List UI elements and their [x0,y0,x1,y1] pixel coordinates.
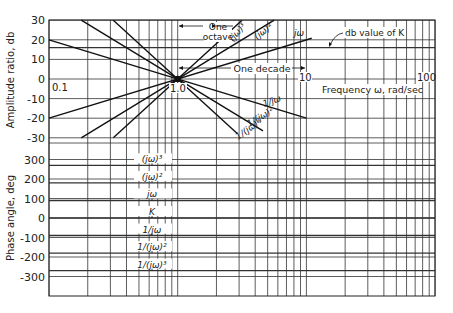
phase-label: (jω)³ [142,154,163,164]
amplitude-axis-label: Amplitude ratio, db [5,32,16,129]
line-labels: (jω)³ (jω)² jω 1/jω 1/(jω)² 1/(jω)³ [227,21,305,142]
plot-frame [49,20,435,296]
label-1-jw: 1/jω [261,93,283,109]
phase-label: 1/jω [143,225,162,235]
grid-lines [49,20,435,296]
label-jw: jω [292,28,305,38]
amplitude-tick: 30 [31,14,45,27]
db-value-of-k-label: db value of K [345,28,405,38]
amplitude-tick: 10 [31,53,45,66]
phase-label: 1/(jω)³ [137,260,167,270]
phase-tick: 200 [24,173,45,186]
phase-label: jω [145,189,158,199]
phase-tick: -300 [20,271,45,284]
phase-tick: -200 [20,251,45,264]
amplitude-tick: 20 [31,34,45,47]
phase-axis-label: Phase angle, deg [5,175,16,261]
phase-tick: 100 [24,193,45,206]
frequency-axis-label: Frequency ω, rad/sec [322,84,423,95]
phase-tick: -100 [20,232,45,245]
x-tick-10: 10 [299,72,312,83]
amplitude-tick: -20 [27,112,45,125]
one-decade-label: One decade [233,63,290,74]
amplitude-tick-labels: 3020100-10-20-30 [27,14,45,145]
x-tick-1.0: 1.0 [170,83,186,94]
amplitude-tick: -10 [27,93,45,106]
phase-label: 1/(jω)² [137,242,167,252]
phase-tick: 300 [24,154,45,167]
one-octave-label: One [209,22,228,32]
x-tick-100: 100 [417,72,436,83]
phase-tick: 0 [38,212,45,225]
phase-tick-labels: 3002001000-100-200-300 [20,154,45,284]
phase-label: (jω)² [142,172,163,182]
bode-chart: 3020100-10-20-30 3002001000-100-200-300 … [0,0,453,313]
x-tick-0.1: 0.1 [52,82,68,93]
amplitude-tick: -30 [27,132,45,145]
horizontal-grid-lines [49,20,435,276]
amplitude-tick: 0 [38,73,45,86]
